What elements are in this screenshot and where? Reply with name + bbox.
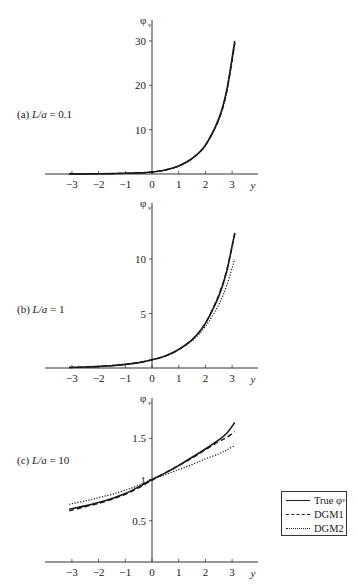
y-tick-label: 10 (135, 124, 147, 136)
y-axis-label: φ (140, 197, 146, 209)
legend-item-true: True φv (286, 493, 345, 507)
dotted-line-icon (286, 528, 310, 529)
x-tick-label: −3 (66, 566, 78, 578)
y-tick-label: 1.5 (132, 432, 146, 444)
x-axis-label: y (250, 373, 256, 385)
panel-c-label: (c) L/a = 10 (17, 454, 69, 466)
x-tick-label: −3 (66, 372, 78, 384)
y-tick-label: 10 (135, 253, 147, 265)
y-tick-label: 20 (135, 79, 147, 91)
y-axis-label-subscript: v (148, 399, 152, 407)
y-tick-label: 0.5 (132, 515, 146, 527)
x-tick-label: 3 (229, 566, 235, 578)
legend-label: True φ (314, 495, 342, 506)
x-axis-label: y (250, 567, 256, 579)
x-tick-label: −2 (93, 178, 105, 190)
x-tick-label: −2 (93, 566, 105, 578)
x-axis-label: y (250, 179, 256, 191)
x-tick-label: −1 (119, 566, 131, 578)
x-tick-label: −1 (119, 372, 131, 384)
x-tick-label: 0 (149, 178, 155, 190)
legend-subscript: v (342, 496, 345, 504)
y-axis-label-subscript: v (148, 204, 152, 212)
legend-item-dgm2: DGM2 (286, 521, 344, 535)
legend-item-dgm1: DGM1 (286, 507, 344, 521)
y-tick-label: 5 (141, 308, 147, 320)
x-tick-label: 1 (176, 566, 182, 578)
legend-label: DGM1 (314, 509, 344, 520)
solid-line-icon (286, 500, 310, 501)
panel-b-label: (b) L/a = 1 (17, 303, 64, 315)
y-tick-label: 30 (135, 35, 147, 47)
x-tick-label: −2 (93, 372, 105, 384)
figure: −3−2−10123y102030φv−3−2−10123y510φv−3−2−… (0, 0, 357, 587)
x-tick-label: −1 (119, 178, 131, 190)
x-tick-label: 1 (176, 178, 182, 190)
x-tick-label: 0 (149, 372, 155, 384)
x-tick-label: 2 (203, 372, 209, 384)
x-tick-label: −3 (66, 178, 78, 190)
panel-a-label: (a) L/a = 0.1 (17, 108, 72, 120)
y-axis-label: φ (140, 392, 146, 404)
dashed-line-icon (286, 514, 310, 515)
y-axis-label: φ (140, 14, 146, 26)
x-tick-label: 2 (203, 178, 209, 190)
legend-label: DGM2 (314, 523, 344, 534)
legend: True φv DGM1 DGM2 (281, 491, 347, 536)
y-axis-label-subscript: v (148, 21, 152, 29)
x-tick-label: 3 (229, 372, 235, 384)
x-tick-label: 2 (203, 566, 209, 578)
x-tick-label: 0 (149, 566, 155, 578)
x-tick-label: 3 (229, 178, 235, 190)
x-tick-label: 1 (176, 372, 182, 384)
